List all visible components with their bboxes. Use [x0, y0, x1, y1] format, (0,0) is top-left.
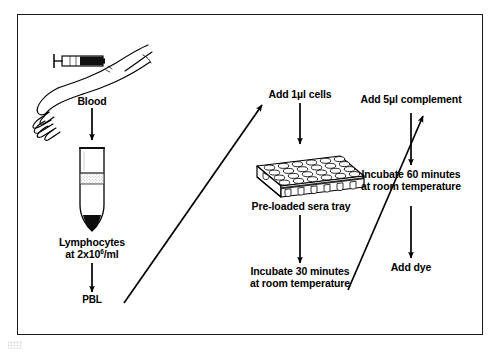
label-sera-tray: Pre-loaded sera tray: [252, 200, 351, 212]
incubate-30-line-2: at room temperature: [250, 277, 350, 289]
label-incubate-60: Incubate 60 minutes at room temperature: [361, 168, 461, 193]
lymphocytes-line-1: Lymphocytes: [59, 236, 125, 248]
label-add-cells: Add 1µl cells: [268, 88, 331, 100]
incubate-60-line-1: Incubate 60 minutes: [361, 168, 460, 180]
incubate-60-line-2: at room temperature: [361, 180, 461, 192]
label-lymphocytes: Lymphocytes at 2x106/ml: [59, 236, 125, 261]
label-incubate-30: Incubate 30 minutes at room temperature: [250, 265, 350, 290]
incubate-30-line-1: Incubate 30 minutes: [250, 265, 349, 277]
label-blood: Blood: [77, 95, 106, 107]
caption-artifact: [8, 341, 22, 349]
label-add-complement: Add 5µl complement: [360, 93, 461, 105]
assay-workflow-figure: Blood Lymphocytes at 2x106/ml PBL Add 1µ…: [0, 0, 493, 352]
label-add-dye: Add dye: [391, 261, 432, 273]
lymphocytes-concentration: at 2x106/ml: [65, 248, 118, 260]
label-pbl: PBL: [82, 294, 102, 306]
